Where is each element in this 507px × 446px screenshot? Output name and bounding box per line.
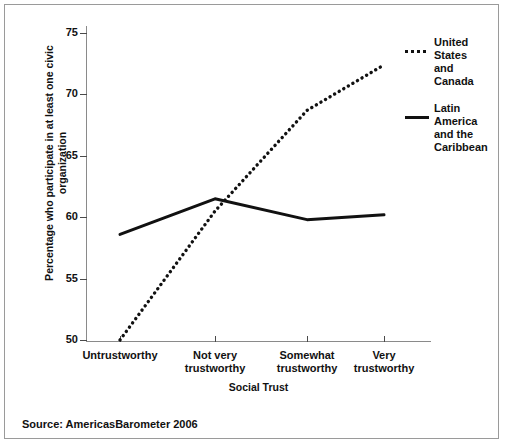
source-note: Source: AmericasBarometer 2006 <box>22 418 198 430</box>
series-line-latin-america <box>120 199 384 235</box>
legend-entry-latin-america: Latin America and the Caribbean <box>404 102 500 154</box>
solid-line-icon <box>404 102 430 132</box>
legend-label-latin-america: Latin America and the Caribbean <box>434 102 488 154</box>
series-line-us-canada <box>120 65 384 340</box>
dotted-line-icon <box>404 36 430 66</box>
chart-legend: United States and Canada Latin America a… <box>404 36 500 168</box>
legend-entry-us-canada: United States and Canada <box>404 36 500 88</box>
chart-figure: 505560657075 UntrustworthyNot verytrustw… <box>0 0 507 446</box>
legend-label-us-canada: United States and Canada <box>434 36 474 88</box>
